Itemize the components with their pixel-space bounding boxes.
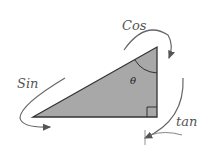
tan-label: tan [176, 114, 197, 129]
theta-label: θ [130, 75, 136, 86]
cos-label: Cos [122, 18, 147, 33]
sin-label: Sin [17, 76, 38, 91]
right-triangle [33, 47, 157, 117]
trig-diagram: Cos Sin tan θ [0, 0, 219, 161]
